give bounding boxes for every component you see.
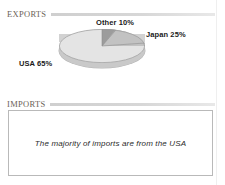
imports-section-label: IMPORTS: [7, 99, 50, 109]
pie-graphic: [59, 29, 145, 72]
exports-imports-panel: EXPORTS: [0, 0, 225, 185]
pie-label-usa: USA 65%: [19, 59, 52, 68]
imports-section-header: IMPORTS: [7, 98, 215, 110]
exports-header-rule: [51, 13, 215, 16]
pie-label-other: Other 10%: [96, 18, 134, 27]
imports-content-box: The majority of imports are from the USA: [8, 110, 213, 176]
pie-label-japan: Japan 25%: [146, 30, 186, 39]
imports-note-text: The majority of imports are from the USA: [35, 139, 186, 148]
imports-header-rule: [50, 103, 215, 106]
exports-pie-chart: Other 10% Japan 25% USA 65%: [0, 18, 225, 92]
pie-top-face: [59, 29, 145, 63]
pie-slices-svg: [59, 29, 145, 63]
